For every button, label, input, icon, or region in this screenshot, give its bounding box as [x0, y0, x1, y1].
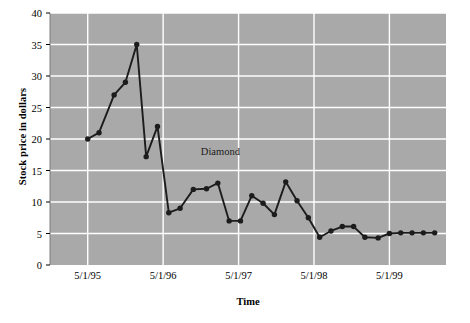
x-axis-title: Time: [50, 296, 446, 307]
x-axis-tick-labels: 5/1/955/1/965/1/975/1/985/1/99: [0, 0, 470, 323]
x-axis-tick-label: 5/1/99: [376, 270, 403, 281]
x-axis-tick-label: 5/1/98: [301, 270, 328, 281]
x-axis-tick-label: 5/1/97: [225, 270, 252, 281]
stock-price-line-chart: 0510152025303540 5/1/955/1/965/1/975/1/9…: [0, 0, 470, 323]
y-axis-title: Stock price in dollars: [17, 42, 28, 232]
x-axis-tick-label: 5/1/96: [150, 270, 177, 281]
x-axis-tick-label: 5/1/95: [74, 270, 101, 281]
